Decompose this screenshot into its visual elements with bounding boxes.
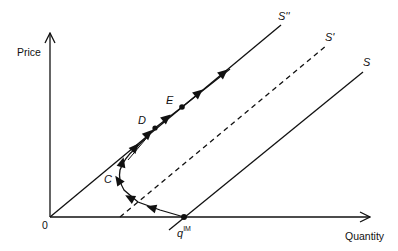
arrowhead-icon [123, 191, 136, 204]
curve-label-s: S [363, 57, 370, 68]
point-label-d: D [138, 115, 146, 126]
curve-label-s-double-prime: S'' [278, 11, 290, 22]
arrowhead-icon [112, 173, 125, 186]
point-label-qim: qIM [177, 226, 191, 239]
y-axis-label: Price [17, 47, 41, 58]
x-axis-label: Quantity [345, 231, 384, 242]
point-label-qim-sup: IM [183, 225, 191, 232]
point-e [179, 104, 185, 110]
diagram: Price Quantity 0 S'' S' S qIM C D E [0, 0, 398, 251]
point-label-e: E [166, 95, 173, 106]
diagram-canvas [0, 0, 398, 251]
point-qim [181, 214, 187, 220]
point-label-c: C [104, 174, 112, 185]
arrowhead-icon [145, 202, 157, 213]
point-d [152, 125, 157, 130]
curve-label-s-prime: S' [325, 32, 334, 43]
origin-label: 0 [42, 220, 48, 231]
adjustment-path [120, 69, 231, 217]
